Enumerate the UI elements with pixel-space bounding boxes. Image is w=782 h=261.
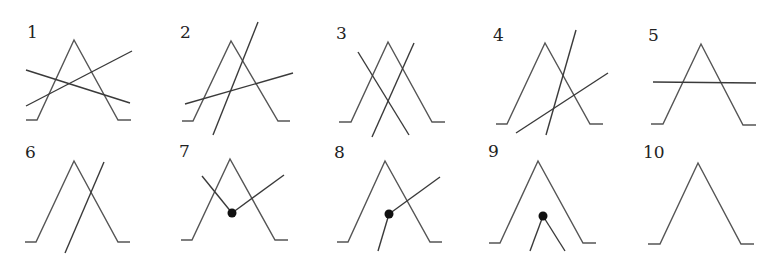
panel-10: 10 <box>643 142 754 244</box>
tent-shape <box>182 41 290 121</box>
crossing-line <box>213 22 258 135</box>
crossing-line <box>26 51 132 106</box>
panel-label: 4 <box>493 25 504 45</box>
panel-label: 6 <box>25 142 36 162</box>
panel-label: 3 <box>336 23 347 43</box>
tent-shape <box>489 161 596 243</box>
panel-6: 6 <box>25 142 130 253</box>
junction-dot <box>385 210 394 219</box>
panel-label: 7 <box>179 141 190 161</box>
crossing-line <box>653 82 756 83</box>
panel-8: 8 <box>334 142 442 251</box>
crossing-line <box>378 214 389 251</box>
diagram-canvas: 12345678910 <box>0 0 782 261</box>
tent-shape <box>648 163 754 244</box>
panel-5: 5 <box>648 25 756 125</box>
crossing-line <box>372 43 414 137</box>
tent-shape <box>26 40 131 120</box>
crossing-line <box>530 216 543 251</box>
panel-grid: 12345678910 <box>25 22 756 253</box>
panel-label: 9 <box>488 141 499 161</box>
crossing-line <box>232 175 284 213</box>
panel-3: 3 <box>336 23 445 137</box>
crossing-line <box>185 73 293 104</box>
panel-label: 10 <box>643 142 665 162</box>
panel-label: 8 <box>334 142 345 162</box>
tent-shape <box>339 42 445 122</box>
junction-dot <box>539 212 548 221</box>
tent-shape <box>651 44 756 125</box>
panel-4: 4 <box>493 25 608 135</box>
panel-9: 9 <box>488 141 596 251</box>
panel-label: 5 <box>648 25 659 45</box>
crossing-line <box>65 162 104 253</box>
panel-7: 7 <box>179 141 288 240</box>
tent-shape <box>337 161 442 242</box>
junction-dot <box>228 209 237 218</box>
crossing-line <box>358 52 409 135</box>
tent-shape <box>181 159 288 240</box>
panel-2: 2 <box>180 22 293 135</box>
crossing-line <box>546 30 576 135</box>
panel-1: 1 <box>26 22 132 120</box>
crossing-line <box>543 216 565 251</box>
panel-label: 2 <box>180 22 191 42</box>
tent-shape <box>25 161 130 242</box>
panel-label: 1 <box>27 22 38 42</box>
